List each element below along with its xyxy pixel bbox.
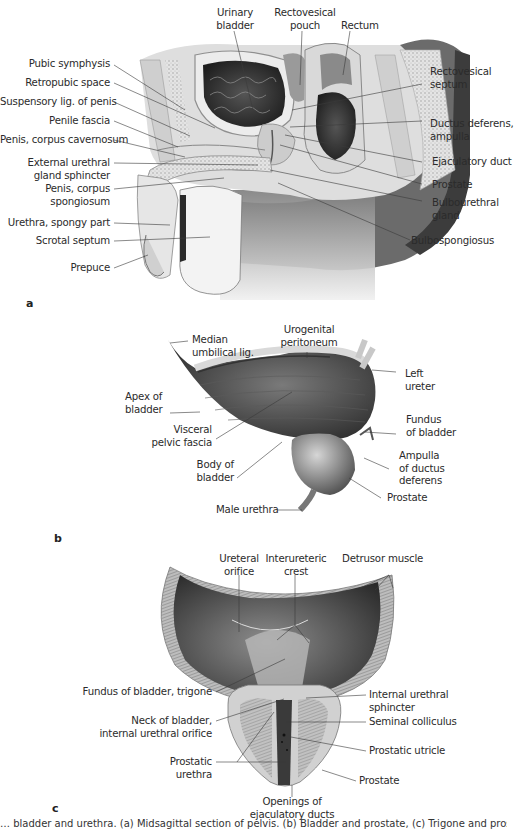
label-visceral-pelvic-fascia: Visceral pelvic fascia <box>140 424 212 449</box>
label-ejaculatory-duct: Ejaculatory duct <box>432 156 512 169</box>
label-scrotal-septum: Scrotal septum <box>0 235 110 248</box>
label-rectovesical-septum: Rectovesical septum <box>430 66 491 91</box>
label-fundus-trigone: Fundus of bladder, trigone <box>40 686 212 699</box>
panel-a-art <box>137 39 470 300</box>
label-neck-of-bladder: Neck of bladder, internal urethral orifi… <box>40 715 212 740</box>
figure-caption-fragment: … bladder and urethra. (a) Midsagittal s… <box>0 818 507 830</box>
label-apex-of-bladder: Apex of bladder <box>125 391 163 416</box>
label-external-urethral-sphincter-2: gland sphincter <box>0 170 110 183</box>
label-rectovesical-pouch: Rectovesical pouch <box>268 7 342 32</box>
label-male-urethra: Male urethra <box>216 504 279 517</box>
label-rectum: Rectum <box>341 20 379 33</box>
label-body-of-bladder: Body of bladder <box>180 459 234 484</box>
label-penile-fascia: Penile fascia <box>0 115 110 128</box>
label-prepuce: Prepuce <box>0 262 110 275</box>
label-prostate-b: Prostate <box>387 492 427 505</box>
label-bulbospongiosus: Bulbospongiosus <box>411 235 494 248</box>
label-interureteric-crest: Interureteric crest <box>258 553 334 578</box>
label-prostate-a: Prostate <box>432 179 472 192</box>
label-ductus-deferens-ampulla: Ductus deferens, ampulla <box>430 118 514 143</box>
label-retropubic-space: Retropubic space <box>0 77 110 90</box>
label-prostatic-utricle: Prostatic utricle <box>369 745 445 758</box>
label-ampulla-of-ductus-deferens: Ampulla of ductus deferens <box>399 450 445 488</box>
panel-letter-b: b <box>54 532 62 545</box>
label-external-urethral-sphincter-1: External urethral <box>0 157 110 170</box>
label-prostatic-urethra: Prostatic urethra <box>140 756 212 781</box>
label-pubic-symphysis: Pubic symphysis <box>0 58 110 71</box>
label-detrusor-muscle: Detrusor muscle <box>342 553 423 566</box>
label-urethra-spongy-part: Urethra, spongy part <box>0 217 110 230</box>
label-seminal-colliculus: Seminal colliculus <box>369 716 457 729</box>
panel-letter-a: a <box>26 297 33 310</box>
label-fundus-of-bladder-b: Fundus of bladder <box>406 414 456 439</box>
label-corpus-spongiosum-2: spongiosum <box>0 196 110 209</box>
label-prostate-c: Prostate <box>359 775 399 788</box>
label-corpus-spongiosum-1: Penis, corpus <box>0 183 110 196</box>
label-median-umbilical-lig: Median umbilical lig. <box>192 334 254 359</box>
label-left-ureter: Left ureter <box>405 368 435 393</box>
panel-letter-c: c <box>52 802 59 815</box>
label-internal-urethral-sphincter: Internal urethral sphincter <box>369 689 449 714</box>
label-suspensory-ligament: Suspensory lig. of penis <box>0 96 110 109</box>
label-corpus-cavernosum: Penis, corpus cavernosum <box>0 134 110 147</box>
label-bulbourethral-gland: Bulbourethral gland <box>432 197 499 222</box>
panel-c-art <box>161 567 394 786</box>
label-urinary-bladder: Urinary bladder <box>205 7 265 32</box>
label-urogenital-peritoneum: Urogenital peritoneum <box>272 324 346 349</box>
